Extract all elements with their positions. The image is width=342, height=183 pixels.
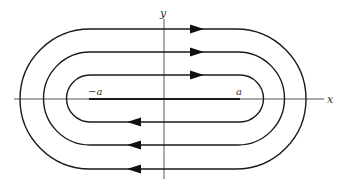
arrow-left-middle: [127, 141, 141, 150]
arrow-right-inner: [190, 71, 204, 80]
arrow-left-inner: [127, 118, 141, 127]
arrow-left-outer: [127, 165, 141, 174]
arrow-right-middle: [190, 48, 204, 57]
y-axis-label: y: [159, 7, 167, 20]
minus-a-label: −a: [88, 86, 102, 97]
a-label: a: [236, 86, 242, 97]
arrow-right-outer: [190, 25, 204, 34]
diagram-canvas: y x −a a: [0, 0, 342, 183]
x-axis-label: x: [327, 93, 334, 106]
